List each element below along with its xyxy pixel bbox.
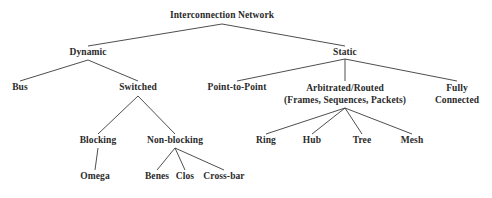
edge-arbitrated-mesh	[345, 108, 412, 134]
node-arbitrated-routed-line-2: (Frames, Sequences, Packets)	[284, 94, 406, 106]
edge-arbitrated-ring	[266, 108, 345, 134]
node-switched: Switched	[119, 82, 157, 94]
node-omega: Omega	[80, 171, 110, 183]
edge-dynamic-bus	[20, 60, 88, 81]
edge-root-static	[222, 24, 345, 46]
node-interconnection-network: Interconnection Network	[170, 10, 274, 22]
edge-static-point-to-point	[237, 59, 345, 81]
node-hub: Hub	[303, 135, 321, 147]
edge-non-blocking-crossbar	[175, 148, 224, 170]
edge-non-blocking-benes	[157, 148, 175, 170]
node-ring: Ring	[256, 135, 276, 147]
node-fully-connected-line-2: Connected	[435, 94, 479, 106]
node-fully-connected: Fully Connected	[435, 83, 479, 106]
node-dynamic: Dynamic	[69, 47, 106, 59]
node-tree: Tree	[353, 135, 372, 147]
edge-arbitrated-tree	[345, 108, 362, 134]
node-clos: Clos	[176, 171, 194, 183]
node-arbitrated-routed-line-1: Arbitrated/Routed	[284, 83, 406, 95]
node-static: Static	[333, 47, 357, 59]
interconnection-network-tree-diagram: Interconnection Network Dynamic Static B…	[0, 0, 492, 198]
edge-switched-non-blocking	[138, 96, 175, 134]
node-benes: Benes	[145, 171, 169, 183]
edge-root-dynamic	[88, 24, 222, 46]
edge-switched-blocking	[98, 96, 138, 134]
node-blocking: Blocking	[80, 135, 117, 147]
node-non-blocking: Non-blocking	[147, 135, 203, 147]
edge-static-fully-connected	[345, 59, 457, 81]
node-crossbar: Cross-bar	[203, 171, 244, 183]
node-fully-connected-line-1: Fully	[435, 83, 479, 95]
node-bus: Bus	[12, 82, 28, 94]
edge-non-blocking-clos	[175, 148, 185, 170]
edge-dynamic-switched	[88, 60, 138, 81]
tree-edges	[0, 0, 492, 198]
node-point-to-point: Point-to-Point	[208, 82, 267, 94]
node-arbitrated-routed: Arbitrated/Routed (Frames, Sequences, Pa…	[284, 83, 406, 106]
node-mesh: Mesh	[401, 135, 424, 147]
edge-blocking-omega	[95, 148, 98, 170]
edge-arbitrated-hub	[312, 108, 345, 134]
